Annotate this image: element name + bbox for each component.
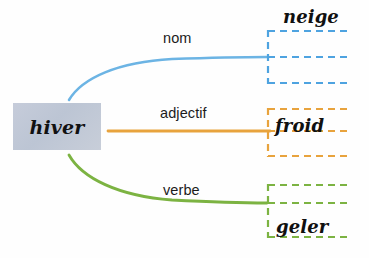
connector-nom [69,57,267,100]
answer-word-neige: neige [283,6,339,27]
branch-label-adjectif: adjectif [160,105,207,121]
root-node-hiver: hiver [13,103,101,150]
branch-label-nom: nom [163,30,192,46]
answer-word-geler: geler [276,216,328,237]
mind-map-diagram: hiver nom adjectif verbe neige froid gel… [0,0,369,258]
answer-word-froid: froid [275,115,324,136]
root-node-label: hiver [29,116,84,138]
branch-label-verbe: verbe [163,182,200,198]
answer-area-neige[interactable] [268,30,350,84]
